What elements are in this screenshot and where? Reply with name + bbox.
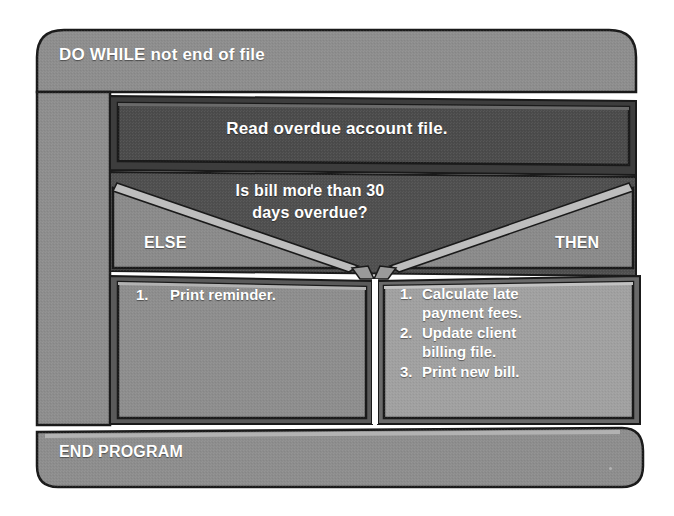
list-item: 1. Print reminder. bbox=[136, 285, 356, 304]
scan-artifact-speck bbox=[311, 184, 313, 189]
then-branch-step-list: 1. Calculate late payment fees. 2. Updat… bbox=[400, 284, 600, 382]
step-number: 2. bbox=[400, 323, 422, 342]
process-block-label: Read overdue account file. bbox=[0, 119, 674, 139]
do-while-header-label: DO WHILE not end of file bbox=[59, 45, 265, 65]
decision-question-label: Is bill more than 30days overdue? bbox=[175, 180, 445, 224]
structure-chart-diagram: DO WHILE not end of file Read overdue ac… bbox=[0, 0, 674, 516]
decision-question-line-1: Is bill more than 30 bbox=[236, 182, 385, 199]
step-number: 3. bbox=[400, 362, 422, 381]
step-text: Calculate late payment fees. bbox=[422, 284, 600, 322]
scan-artifact-dot bbox=[609, 467, 612, 470]
list-item: 2. Update client billing file. bbox=[400, 323, 600, 361]
step-number: 1. bbox=[400, 284, 422, 303]
step-text: Update client billing file. bbox=[422, 323, 600, 361]
end-program-label: END PROGRAM bbox=[59, 443, 183, 461]
step-text: Print new bill. bbox=[422, 362, 600, 381]
list-item: 3. Print new bill. bbox=[400, 362, 600, 381]
step-text: Print reminder. bbox=[170, 285, 356, 304]
else-branch-step-list: 1. Print reminder. bbox=[136, 285, 356, 304]
decision-question-line-2: days overdue? bbox=[252, 204, 368, 221]
then-branch-label: THEN bbox=[555, 234, 599, 252]
list-item: 1. Calculate late payment fees. bbox=[400, 284, 600, 322]
branch-separator bbox=[372, 279, 378, 424]
step-number: 1. bbox=[136, 285, 170, 304]
structure-chart-canvas bbox=[0, 0, 674, 516]
else-branch-label: ELSE bbox=[144, 234, 187, 252]
do-while-left-spine-grain bbox=[37, 92, 110, 425]
